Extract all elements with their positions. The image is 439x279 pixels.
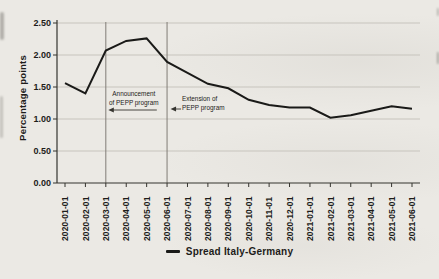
x-tick-label: 2021-06-01 bbox=[407, 196, 417, 241]
annotation-text: PEPP program bbox=[182, 104, 225, 112]
x-tick-label: 2021-04-01 bbox=[366, 196, 376, 241]
y-tick-label: 2.50 bbox=[33, 18, 51, 28]
x-tick-label: 2021-02-01 bbox=[326, 196, 336, 241]
chart-canvas: 0.000.501.001.502.002.502020-01-012020-0… bbox=[0, 0, 439, 279]
x-tick-label: 2020-08-01 bbox=[203, 196, 213, 241]
x-tick-label: 2021-03-01 bbox=[346, 196, 356, 241]
y-axis-title: Percentage points bbox=[17, 55, 28, 141]
x-tick-label: 2021-01-01 bbox=[305, 196, 315, 241]
legend-label: Spread Italy-Germany bbox=[186, 246, 293, 257]
legend-line-swatch bbox=[166, 250, 180, 252]
legend: Spread Italy-Germany bbox=[0, 246, 439, 257]
x-tick-label: 2020-09-01 bbox=[223, 196, 233, 241]
x-tick-label: 2020-12-01 bbox=[285, 196, 295, 241]
spread-line-chart: 0.000.501.001.502.002.502020-01-012020-0… bbox=[0, 0, 439, 279]
y-tick-label: 2.00 bbox=[33, 50, 51, 60]
x-tick-label: 2020-03-01 bbox=[101, 196, 111, 241]
x-tick-label: 2020-05-01 bbox=[142, 196, 152, 241]
y-tick-label: 0.00 bbox=[33, 178, 51, 188]
annotation-text: of PEPP program bbox=[109, 99, 159, 107]
annotation-text: Announcement bbox=[112, 90, 155, 97]
annotations: Announcementof PEPP programExtension ofP… bbox=[108, 90, 224, 112]
x-tick-label: 2021-05-01 bbox=[387, 196, 397, 241]
y-tick-label: 1.50 bbox=[33, 82, 51, 92]
arrow-left-icon bbox=[171, 107, 177, 112]
y-axis-ticks: 0.000.501.001.502.002.50 bbox=[33, 18, 57, 188]
x-tick-label: 2020-04-01 bbox=[121, 196, 131, 241]
arrow-left-icon bbox=[108, 108, 114, 113]
x-axis-ticks: 2020-01-012020-02-012020-03-012020-04-01… bbox=[60, 183, 417, 241]
gridlines bbox=[57, 23, 420, 151]
x-tick-label: 2020-02-01 bbox=[81, 196, 91, 241]
annotation-text: Extension of bbox=[182, 95, 217, 102]
x-tick-label: 2020-01-01 bbox=[60, 196, 70, 241]
y-tick-label: 1.00 bbox=[33, 114, 51, 124]
x-tick-label: 2020-10-01 bbox=[244, 196, 254, 241]
x-tick-label: 2020-11-01 bbox=[264, 197, 274, 241]
y-tick-label: 0.50 bbox=[33, 146, 51, 156]
x-tick-label: 2020-06-01 bbox=[162, 196, 172, 241]
x-tick-label: 2020-07-01 bbox=[183, 196, 193, 241]
